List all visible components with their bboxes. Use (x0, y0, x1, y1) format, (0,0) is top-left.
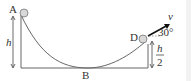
label-v: v (168, 10, 173, 22)
border-strip (186, 0, 191, 81)
track-diagram: A B D h h 2 v 30° (0, 0, 191, 81)
label-a: A (9, 3, 17, 15)
ball-a (20, 9, 28, 17)
label-d: D (130, 31, 138, 43)
ball-d (139, 35, 147, 43)
label-h: h (6, 36, 12, 48)
label-h-half-num: h (157, 42, 163, 54)
label-h-half-den: 2 (157, 56, 163, 68)
label-b: B (82, 69, 89, 81)
curved-track (21, 15, 145, 68)
label-angle: 30° (158, 26, 173, 38)
